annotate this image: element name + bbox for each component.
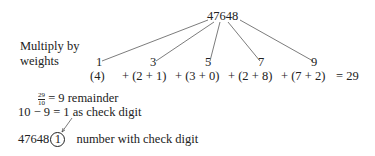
subtraction-expr: 10 − 9 = bbox=[18, 105, 63, 119]
subtraction-label: as check digit bbox=[70, 105, 142, 119]
subtraction-line: 10 − 9 = 1 as check digit bbox=[18, 106, 141, 119]
numerator: 29 bbox=[38, 92, 45, 99]
product-first: (4) bbox=[90, 70, 105, 83]
product-term-1: + (2 + 1) bbox=[122, 70, 166, 83]
product-term-2: + (3 + 0) bbox=[175, 70, 219, 83]
weight-9: 9 bbox=[311, 56, 317, 69]
circled-check-digit: 1 bbox=[50, 132, 65, 147]
product-sum: = 29 bbox=[336, 70, 359, 83]
weight-1: 1 bbox=[96, 56, 102, 69]
weight-5: 5 bbox=[205, 56, 211, 69]
label-multiply: Multiply by bbox=[20, 40, 79, 53]
division-result: = 9 remainder bbox=[48, 91, 118, 105]
original-number: 47648 bbox=[207, 10, 238, 23]
weight-7: 7 bbox=[258, 56, 264, 69]
final-line: 476481 number with check digit bbox=[18, 132, 198, 147]
weight-3: 3 bbox=[150, 56, 156, 69]
product-term-4: + (7 + 2) bbox=[281, 70, 325, 83]
product-term-3: + (2 + 8) bbox=[228, 70, 272, 83]
final-number: 47648 bbox=[18, 132, 49, 146]
final-label: number with check digit bbox=[76, 132, 198, 146]
label-weights: weights bbox=[20, 55, 59, 68]
